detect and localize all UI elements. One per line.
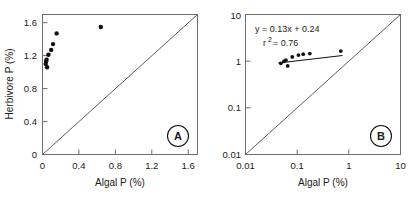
- figure-container: 0 0.4 0.8 1.2 1.6 0 0.4 0.8 1.2 1.6 Alga…: [0, 0, 418, 199]
- panel-b-equation-annotation: y = 0.13x + 0.24: [255, 24, 320, 34]
- panel-b-badge: B: [371, 126, 392, 147]
- data-point: [49, 48, 53, 52]
- panel-a-badge-label: A: [174, 130, 182, 142]
- panel-b-xtick-1: 0.1: [291, 160, 304, 171]
- panel-b-ytick-1: 0.1: [228, 102, 241, 113]
- data-point: [54, 31, 58, 35]
- data-point: [284, 58, 288, 62]
- panel-a-ytick-4: 1.6: [24, 17, 37, 28]
- panel-b-xtick-2: 1: [346, 160, 351, 171]
- panel-a-ytick-1: 0.4: [24, 116, 37, 127]
- data-point: [290, 55, 294, 59]
- panel-b-ytick-0: 0.01: [223, 149, 242, 160]
- panel-a-xtick-1: 0.4: [72, 160, 85, 171]
- panel-a: 0 0.4 0.8 1.2 1.6 0 0.4 0.8 1.2 1.6 Alga…: [0, 0, 209, 199]
- data-point: [99, 25, 103, 29]
- panel-a-y-tickmarks: [43, 23, 48, 155]
- data-point: [51, 42, 55, 46]
- data-point: [339, 49, 343, 53]
- panel-b: 0.01 0.1 1 10 0.01 0.1 1 10 Algal P (%) …: [209, 0, 418, 199]
- panel-a-xtick-4: 1.6: [182, 160, 195, 171]
- data-point: [45, 65, 49, 69]
- data-point: [301, 52, 305, 56]
- panel-b-plot: 0.01 0.1 1 10 0.01 0.1 1 10 Algal P (%) …: [209, 0, 418, 199]
- panel-b-regression-line: [279, 56, 343, 64]
- panel-b-xlabel: Algal P (%): [298, 177, 348, 188]
- panel-a-plot: 0 0.4 0.8 1.2 1.6 0 0.4 0.8 1.2 1.6 Alga…: [0, 0, 209, 199]
- data-point: [46, 53, 50, 57]
- panel-a-badge: A: [168, 126, 189, 147]
- panel-b-rsquared-exponent: 2: [268, 36, 272, 43]
- panel-a-xtick-2: 0.8: [109, 160, 122, 171]
- panel-b-y-tickmarks: [246, 15, 251, 155]
- panel-b-xtick-0: 0.01: [236, 160, 255, 171]
- panel-b-rsquared-value: = 0.76: [273, 38, 298, 48]
- panel-b-rsquared-prefix: r: [263, 38, 266, 48]
- panel-a-ytick-0: 0: [32, 149, 37, 160]
- panel-a-data-points: [44, 25, 104, 70]
- panel-b-data-points: [279, 49, 343, 68]
- panel-b-badge-label: B: [377, 130, 385, 142]
- panel-a-ytick-2: 0.8: [24, 83, 37, 94]
- panel-a-x-tickmarks: [43, 150, 189, 155]
- data-point: [286, 64, 290, 68]
- panel-a-ylabel: Herbivore P (%): [4, 49, 15, 120]
- panel-b-ytick-3: 10: [230, 10, 241, 21]
- data-point: [297, 53, 301, 57]
- data-point: [44, 58, 48, 62]
- panel-a-xtick-3: 1.2: [145, 160, 158, 171]
- panel-a-xlabel: Algal P (%): [95, 177, 145, 188]
- panel-b-ytick-2: 1: [236, 56, 241, 67]
- panel-b-x-tickmarks: [246, 150, 401, 155]
- panel-a-ytick-3: 1.2: [24, 50, 37, 61]
- panel-a-xtick-0: 0: [40, 160, 45, 171]
- panel-b-xtick-3: 10: [395, 160, 406, 171]
- data-point: [308, 52, 312, 56]
- panel-b-rsquared-annotation: r 2 = 0.76: [263, 36, 298, 48]
